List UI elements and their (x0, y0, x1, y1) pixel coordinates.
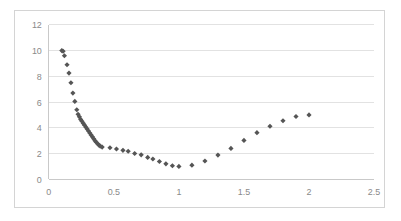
data-point (150, 156, 155, 161)
data-point (306, 112, 311, 117)
data-point (163, 161, 168, 166)
data-point (74, 107, 79, 112)
data-point (293, 114, 298, 119)
data-point (228, 146, 233, 151)
chart-frame: 024681012 00.511.522.5 (14, 10, 385, 208)
data-point (280, 118, 285, 123)
data-point (145, 155, 150, 160)
data-point (254, 130, 259, 135)
data-point (64, 62, 69, 67)
y-axis-tick-labels: 024681012 (32, 20, 42, 184)
x-tick-label: 0 (46, 187, 51, 197)
data-point (132, 151, 137, 156)
gridlines (49, 25, 374, 179)
y-tick-label: 12 (32, 20, 42, 30)
y-tick-label: 8 (37, 72, 42, 82)
x-tick-label: 0.5 (108, 187, 120, 197)
data-point (189, 163, 194, 168)
data-point (68, 80, 73, 85)
data-point (72, 99, 77, 104)
data-point (139, 152, 144, 157)
y-tick-label: 0 (37, 175, 42, 185)
data-point (241, 138, 246, 143)
x-tick-label: 2.5 (368, 187, 380, 197)
data-point (202, 158, 207, 163)
data-point (176, 164, 181, 169)
x-tick-label: 2 (307, 187, 312, 197)
x-axis-tick-labels: 00.511.522.5 (46, 187, 380, 197)
x-tick-label: 1 (176, 187, 181, 197)
data-point (126, 149, 131, 154)
y-tick-label: 2 (37, 149, 42, 159)
scatter-chart: 024681012 00.511.522.5 (15, 11, 384, 207)
data-point (114, 146, 119, 151)
y-tick-label: 6 (37, 98, 42, 108)
data-point (157, 159, 162, 164)
data-point (66, 71, 71, 76)
data-point (70, 90, 75, 95)
y-tick-label: 4 (37, 123, 42, 133)
data-point (170, 163, 175, 168)
x-tick-label: 1.5 (238, 187, 250, 197)
data-point (62, 53, 67, 58)
data-point-group (59, 48, 311, 169)
data-point (107, 145, 112, 150)
data-point (120, 148, 125, 153)
y-tick-label: 10 (32, 46, 42, 56)
